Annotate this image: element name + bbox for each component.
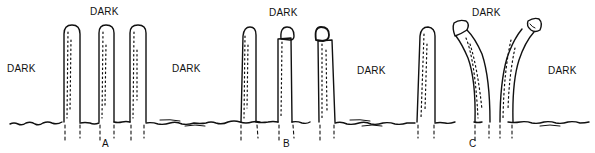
panel-letter-a: A <box>102 139 109 149</box>
shoot-c2-cap <box>453 20 468 36</box>
dark-label-b-top: DARK <box>269 8 298 18</box>
shoot-b1 <box>241 27 256 122</box>
shoot-a2 <box>99 25 114 122</box>
dark-label-a-left: DARK <box>7 64 36 74</box>
panel-letter-c: C <box>469 139 476 149</box>
shoot-c3-cap <box>527 18 541 31</box>
shoot-a3 <box>130 25 146 122</box>
dark-label-a-top: DARK <box>90 7 119 17</box>
shoot-c2-body <box>456 30 490 122</box>
shoot-a1 <box>64 25 80 122</box>
shoot-c1 <box>417 27 435 122</box>
dark-label-b-right: DARK <box>357 66 386 76</box>
shoot-b3-cap <box>316 27 329 41</box>
panel-letter-b: B <box>283 139 290 149</box>
coleoptile-diagram: DARK DARK DARK A DARK DARK B DARK DARK C <box>0 0 595 153</box>
dark-label-a-right: DARK <box>172 64 201 74</box>
shoot-c3-cap-inner <box>530 24 535 28</box>
soil-line <box>10 121 589 125</box>
diagram-drawing <box>0 0 595 153</box>
dark-label-c-top: DARK <box>472 8 501 18</box>
dark-label-c-right: DARK <box>548 66 577 76</box>
shoot-b2-body <box>278 38 292 122</box>
